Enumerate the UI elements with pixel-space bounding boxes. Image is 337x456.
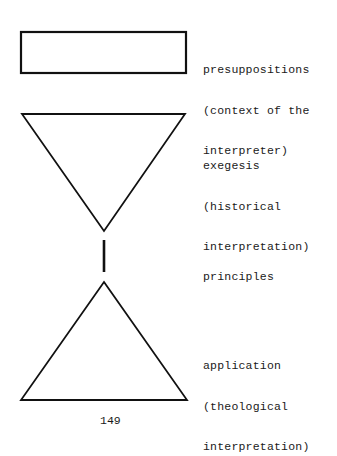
label-line: application <box>203 359 310 373</box>
label-line: exegesis <box>203 159 310 173</box>
label-line: (context of the <box>203 104 310 118</box>
label-line: interpretation) <box>203 440 310 454</box>
page-number: 149 <box>100 414 121 427</box>
application-label: application (theological interpretation) <box>203 332 310 456</box>
exegesis-inverted-triangle <box>22 114 185 231</box>
label-line: presuppositions <box>203 63 310 77</box>
principles-label: principles <box>203 243 274 297</box>
label-line: (theological <box>203 400 310 414</box>
application-triangle <box>21 282 187 400</box>
presuppositions-box <box>21 32 186 73</box>
label-line: principles <box>203 270 274 284</box>
label-line: (historical <box>203 200 310 214</box>
